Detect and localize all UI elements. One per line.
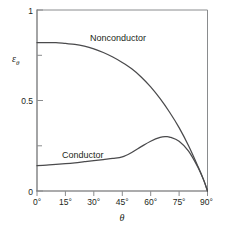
y-axis-ticks (37, 10, 43, 191)
chart-plot-area (0, 0, 225, 227)
series-curve-conductor (37, 137, 208, 191)
series-curve-nonconductor (37, 43, 208, 191)
x-axis-ticks (37, 191, 208, 196)
chart-figure: 1 0.5 0 0° 15° 30° 45° 60° 75° 90° εθ θ … (0, 0, 225, 227)
